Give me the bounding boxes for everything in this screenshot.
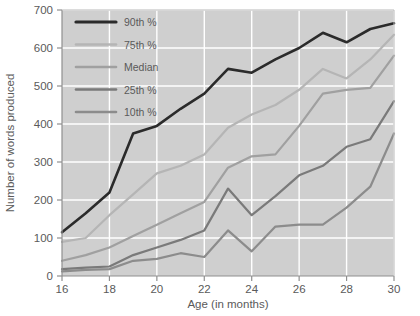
legend-label: 10th % [124, 106, 157, 118]
y-tick-label: 400 [34, 118, 53, 130]
x-tick-label: 28 [340, 283, 353, 295]
legend-label: 90th % [124, 16, 157, 28]
x-tick-label: 20 [150, 283, 163, 295]
x-tick-label: 18 [103, 283, 116, 295]
y-tick-label: 500 [34, 80, 53, 92]
line-chart: 0100200300400500600700 1618202224262830 … [0, 0, 420, 316]
y-tick-label: 700 [34, 4, 53, 16]
y-tick-label: 200 [34, 194, 53, 206]
legend-label: 75th % [124, 39, 157, 51]
legend-label: 25th % [124, 84, 157, 96]
y-tick-label: 0 [47, 270, 53, 282]
x-tick-label: 22 [198, 283, 211, 295]
y-tick-label: 300 [34, 156, 53, 168]
x-tick-label: 24 [245, 283, 258, 295]
x-tick-label: 16 [56, 283, 69, 295]
x-axis-title: Age (in months) [187, 298, 268, 310]
x-tick-label: 26 [293, 283, 306, 295]
plot-area-background [62, 10, 394, 276]
legend-label: Median [124, 61, 159, 73]
x-tick-label: 30 [388, 283, 401, 295]
y-tick-label: 100 [34, 232, 53, 244]
y-axis-title: Number of words produced [4, 74, 16, 213]
chart-figure: 0100200300400500600700 1618202224262830 … [0, 0, 420, 316]
y-tick-label: 600 [34, 42, 53, 54]
